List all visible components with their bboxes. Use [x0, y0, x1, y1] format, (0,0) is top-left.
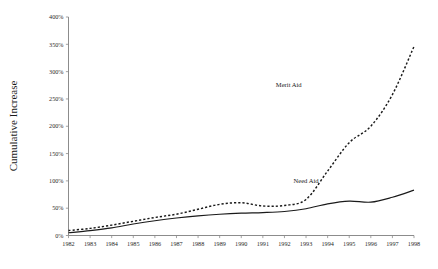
x-axis-tick-label: 1996	[365, 240, 377, 247]
y-axis-title: Cumulative Increase	[7, 81, 19, 172]
series-line-merit-aid	[69, 47, 415, 231]
x-axis-tick-label: 1982	[62, 240, 74, 247]
x-axis-tick-label: 1984	[106, 240, 118, 247]
y-axis-tick-label: 150%	[49, 150, 63, 157]
chart-container: 0%50%100%150%200%250%300%350%400%1982198…	[0, 0, 438, 269]
y-axis-tick-label: 50%	[52, 204, 63, 211]
series-line-need-aid	[69, 190, 415, 233]
x-axis-tick-label: 1995	[343, 240, 355, 247]
y-axis-tick-label: 250%	[49, 95, 63, 102]
x-axis-tick-label: 1986	[149, 240, 161, 247]
x-axis-tick-label: 1998	[408, 240, 420, 247]
x-axis-tick-label: 1993	[300, 240, 312, 247]
y-axis-tick-label: 200%	[49, 122, 63, 129]
x-axis-tick-label: 1997	[386, 240, 398, 247]
x-axis-tick-label: 1987	[170, 240, 182, 247]
y-axis-tick-label: 400%	[49, 13, 63, 20]
y-axis-tick-label: 0%	[55, 232, 63, 239]
chart-plot-area: 0%50%100%150%200%250%300%350%400%1982198…	[0, 0, 438, 269]
x-axis-tick-label: 1992	[278, 240, 290, 247]
series-annotation-need-aid: Need Aid	[293, 177, 319, 184]
y-axis-tick-label: 350%	[49, 41, 63, 48]
x-axis-tick-label: 1988	[192, 240, 204, 247]
x-axis-tick-label: 1985	[127, 240, 139, 247]
x-axis-tick-label: 1983	[84, 240, 96, 247]
y-axis-tick-label: 100%	[49, 177, 63, 184]
x-axis-tick-label: 1994	[321, 240, 333, 247]
x-axis-tick-label: 1990	[235, 240, 247, 247]
x-axis-tick-label: 1989	[213, 240, 225, 247]
x-axis-tick-label: 1991	[257, 240, 269, 247]
y-axis-tick-label: 300%	[49, 68, 63, 75]
series-annotation-merit-aid: Merit Aid	[276, 81, 303, 88]
